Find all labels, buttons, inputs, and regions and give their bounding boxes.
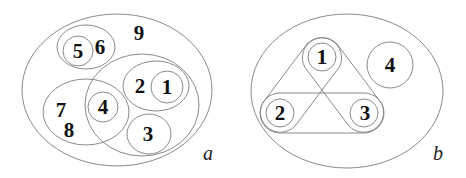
set-5-6 <box>57 25 115 69</box>
number-3: 3 <box>143 122 154 146</box>
number-4: 4 <box>385 53 396 77</box>
number-4: 4 <box>98 95 109 119</box>
outer-set-a <box>22 14 212 166</box>
number-6: 6 <box>95 35 106 59</box>
number-2: 2 <box>275 101 286 125</box>
number-1: 1 <box>317 45 328 69</box>
number-8: 8 <box>64 118 75 142</box>
label-a: a <box>203 142 213 164</box>
number-1: 1 <box>162 75 173 99</box>
set-1-2 <box>123 61 189 111</box>
figure: 5 6 9 2 1 7 8 4 3 a 1 2 3 4 b <box>0 0 466 178</box>
number-5: 5 <box>73 39 84 63</box>
number-2: 2 <box>135 74 146 98</box>
label-b: b <box>433 142 443 164</box>
number-9: 9 <box>134 21 145 45</box>
set-1-2 <box>260 38 341 133</box>
diagram-b: 1 2 3 4 b <box>251 14 443 168</box>
number-3: 3 <box>360 101 371 125</box>
outer-set-b <box>251 14 443 168</box>
diagram-a: 5 6 9 2 1 7 8 4 3 a <box>22 14 213 166</box>
